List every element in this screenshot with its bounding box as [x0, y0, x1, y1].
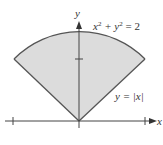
line-equation-label: y = |x| — [114, 90, 144, 102]
circle-equation-label: x2 + y2 = 2 — [92, 20, 140, 32]
x-axis-arrow-icon — [149, 118, 157, 124]
x-axis-label: x — [156, 115, 162, 127]
y-axis-label: y — [74, 7, 80, 19]
y-axis-arrow-icon — [76, 21, 82, 29]
region-diagram: x y x2 + y2 = 2 y = |x| — [0, 0, 163, 145]
